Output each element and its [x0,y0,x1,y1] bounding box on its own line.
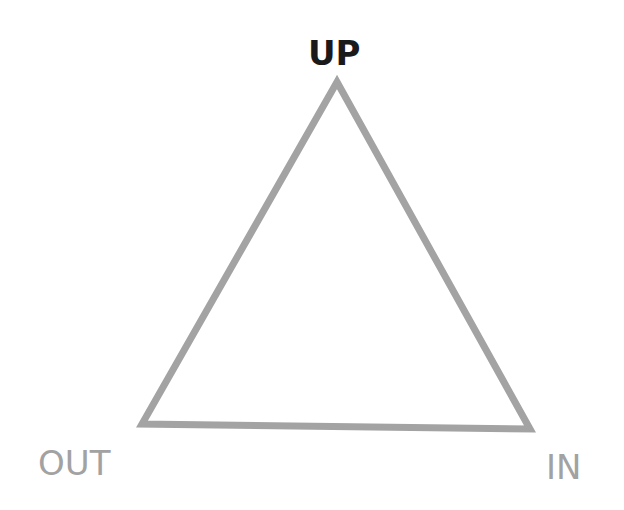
triangle-shape [0,0,624,510]
vertex-label-in: IN [546,450,581,484]
vertex-label-out: OUT [38,446,110,480]
vertex-label-up: UP [308,36,361,70]
diagram-canvas: UP OUT IN [0,0,624,510]
triangle-outline [142,82,530,429]
